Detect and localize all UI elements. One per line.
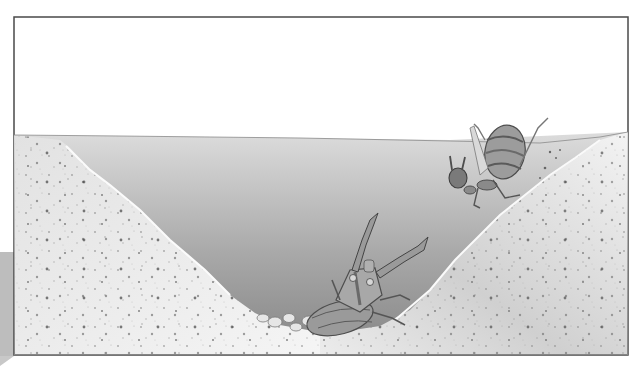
antlion-pit-illustration	[0, 0, 639, 372]
page-edge-shadow	[0, 252, 14, 366]
